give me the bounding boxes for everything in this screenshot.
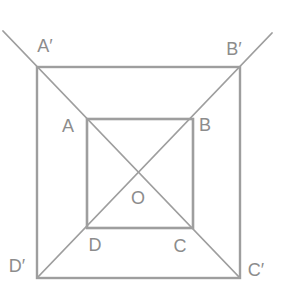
vertex-label-a: A [62,116,74,136]
vertex-label-a-prime: A′ [37,36,53,56]
geometry-figure: A′B′C′D′ABCDO [0,0,287,284]
vertex-label-d: D [89,235,102,255]
vertex-label-c-prime: C′ [248,260,265,280]
vertex-label-d-prime: D′ [9,256,26,276]
diagonal-bprime-dprime [37,33,272,278]
vertex-label-c: C [174,236,187,256]
vertex-label-b-prime: B′ [226,39,242,59]
squares-diagram-canvas: A′B′C′D′ABCDO [0,0,287,284]
vertex-label-b: B [199,115,211,135]
center-label-o: O [131,188,145,208]
